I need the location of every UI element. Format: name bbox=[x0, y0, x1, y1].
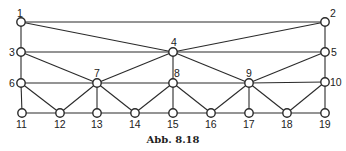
node-circle bbox=[17, 18, 25, 26]
edge-1-4 bbox=[21, 22, 173, 52]
edge-3-7 bbox=[21, 52, 97, 83]
node-label: 11 bbox=[16, 118, 27, 130]
node-label: 15 bbox=[167, 118, 179, 130]
node-11: 11 bbox=[16, 109, 27, 130]
node-label: 3 bbox=[9, 46, 15, 58]
edge-4-9 bbox=[173, 52, 249, 83]
edge-4-7 bbox=[97, 52, 173, 83]
node-circle bbox=[93, 109, 101, 117]
node-circle bbox=[17, 48, 25, 56]
node-17: 17 bbox=[243, 109, 255, 130]
node-label: 7 bbox=[94, 67, 100, 79]
edge-9-18 bbox=[249, 83, 287, 113]
node-circle bbox=[283, 109, 291, 117]
node-circle bbox=[321, 48, 329, 56]
node-15: 15 bbox=[167, 109, 179, 130]
node-label: 17 bbox=[243, 118, 255, 130]
edge-8-14 bbox=[135, 83, 173, 113]
node-label: 4 bbox=[171, 36, 177, 48]
node-circle bbox=[207, 109, 215, 117]
edge-7-14 bbox=[97, 83, 135, 113]
node-circle bbox=[17, 79, 25, 87]
nodes-group: 12345678910111213141516171819 bbox=[9, 7, 342, 130]
node-4: 4 bbox=[169, 36, 177, 56]
node-1: 1 bbox=[17, 7, 25, 26]
figure-caption: Abb. 8.18 bbox=[145, 134, 199, 145]
node-label: 10 bbox=[330, 76, 342, 88]
node-16: 16 bbox=[205, 109, 217, 130]
node-circle bbox=[169, 48, 177, 56]
node-circle bbox=[245, 109, 253, 117]
edge-2-4 bbox=[173, 22, 325, 52]
edge-6-12 bbox=[21, 83, 60, 113]
node-7: 7 bbox=[93, 67, 101, 87]
node-5: 5 bbox=[321, 46, 337, 58]
edge-9-10 bbox=[249, 82, 325, 83]
node-circle bbox=[169, 109, 177, 117]
node-2: 2 bbox=[321, 7, 336, 26]
edge-10-18 bbox=[287, 82, 325, 113]
node-circle bbox=[245, 79, 253, 87]
node-circle bbox=[18, 109, 26, 117]
node-circle bbox=[169, 79, 177, 87]
node-label: 6 bbox=[9, 77, 15, 89]
edge-7-12 bbox=[60, 83, 97, 113]
edge-5-9 bbox=[249, 52, 325, 83]
node-3: 3 bbox=[9, 46, 25, 58]
graph-diagram: 12345678910111213141516171819 Abb. 8.18 bbox=[0, 0, 346, 151]
node-label: 5 bbox=[331, 46, 337, 58]
node-9: 9 bbox=[245, 67, 253, 87]
node-label: 14 bbox=[129, 118, 141, 130]
node-13: 13 bbox=[91, 109, 103, 130]
node-18: 18 bbox=[281, 109, 293, 130]
node-circle bbox=[56, 109, 64, 117]
node-6: 6 bbox=[9, 77, 25, 89]
edge-9-16 bbox=[211, 83, 249, 113]
node-label: 16 bbox=[205, 118, 217, 130]
node-circle bbox=[131, 109, 139, 117]
node-label: 19 bbox=[319, 118, 331, 130]
node-12: 12 bbox=[54, 109, 66, 130]
node-10: 10 bbox=[321, 76, 342, 88]
node-label: 12 bbox=[54, 118, 66, 130]
node-14: 14 bbox=[129, 109, 141, 130]
node-8: 8 bbox=[169, 67, 180, 87]
node-label: 9 bbox=[246, 67, 252, 79]
node-19: 19 bbox=[319, 109, 331, 130]
node-label: 2 bbox=[330, 7, 336, 19]
node-label: 8 bbox=[174, 67, 180, 79]
node-label: 13 bbox=[91, 118, 103, 130]
node-circle bbox=[321, 109, 329, 117]
node-circle bbox=[321, 18, 329, 26]
node-label: 1 bbox=[17, 7, 23, 19]
edge-8-16 bbox=[173, 83, 211, 113]
node-label: 18 bbox=[281, 118, 293, 130]
node-circle bbox=[93, 79, 101, 87]
node-circle bbox=[321, 78, 329, 86]
